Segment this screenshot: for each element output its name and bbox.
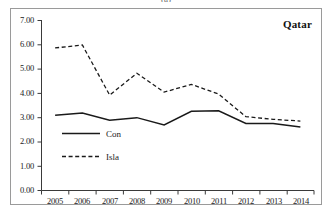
- x-axis-ticks: [42, 191, 315, 195]
- legend-swatches: [62, 134, 100, 157]
- axes: [38, 20, 315, 195]
- legend-label-isla: Isla: [106, 152, 119, 162]
- y-axis-label-5: 5.00: [8, 64, 34, 73]
- series-line-con: [55, 111, 300, 127]
- x-axis-label-2013: 2013: [259, 197, 289, 206]
- x-axis-label-2010: 2010: [177, 197, 207, 206]
- y-axis-label-4: 4.00: [8, 89, 34, 98]
- x-axis-label-2009: 2009: [149, 197, 179, 206]
- y-axis-label-7: 7.00: [8, 16, 34, 25]
- x-axis-label-2006: 2006: [67, 197, 97, 206]
- figure-container: (a): [0, 0, 332, 213]
- x-axis-label-2011: 2011: [204, 197, 234, 206]
- y-axis-label-2: 2.00: [8, 137, 34, 146]
- y-axis-ticks: [38, 21, 42, 191]
- y-axis-label-3: 3.00: [8, 113, 34, 122]
- x-axis-label-2012: 2012: [231, 197, 261, 206]
- chart-annotation-country: Qatar: [283, 18, 312, 30]
- series-line-isla: [55, 45, 300, 121]
- x-axis-label-2014: 2014: [286, 197, 316, 206]
- chart-plot-area: [0, 0, 332, 213]
- x-axis-label-2005: 2005: [40, 197, 70, 206]
- y-axis-label-1: 1.00: [8, 162, 34, 171]
- y-axis-label-0: 0.00: [8, 186, 34, 195]
- y-axis-label-6: 6.00: [8, 40, 34, 49]
- x-axis-label-2008: 2008: [122, 197, 152, 206]
- legend-label-con: Con: [106, 129, 121, 139]
- x-axis-label-2007: 2007: [95, 197, 125, 206]
